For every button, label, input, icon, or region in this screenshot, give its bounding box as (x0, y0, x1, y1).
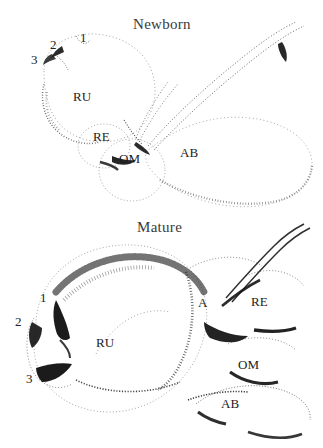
mature-drawing (27, 224, 310, 440)
mature-label-abomasum: AB (221, 397, 239, 410)
newborn-marker-2: 2 (50, 38, 57, 51)
newborn-drawing (43, 22, 313, 207)
panel-title-newborn: Newborn (133, 16, 191, 33)
mature-marker-3: 3 (26, 372, 33, 385)
mature-marker-1: 1 (40, 291, 47, 304)
figure-page: Newborn RU RE OM AB 1 2 3 Mature RU A RE… (0, 0, 323, 448)
newborn-label-abomasum: AB (180, 146, 198, 159)
mature-label-reticulum: RE (251, 295, 268, 308)
mature-label-rumen: RU (96, 336, 114, 349)
newborn-label-reticulum: RE (93, 130, 110, 143)
mature-label-omasum: OM (238, 358, 259, 371)
newborn-label-omasum: OM (119, 152, 140, 165)
mature-marker-2: 2 (15, 315, 22, 328)
newborn-marker-3: 3 (31, 53, 38, 66)
panel-title-mature: Mature (137, 219, 182, 236)
newborn-marker-1: 1 (80, 31, 87, 44)
mature-label-atrium: A (198, 296, 207, 309)
newborn-label-rumen: RU (73, 90, 91, 103)
